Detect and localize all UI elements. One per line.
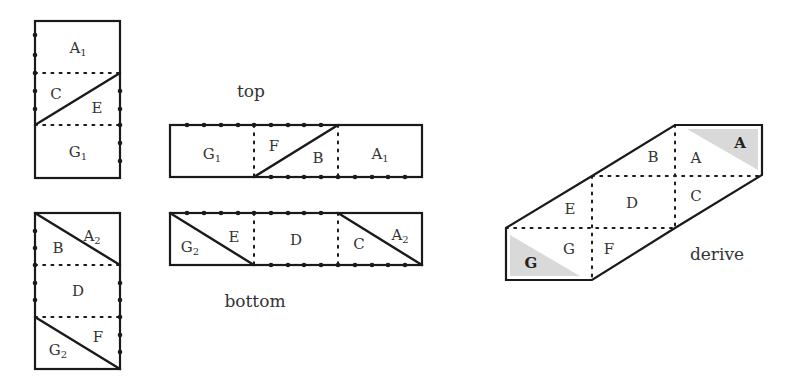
perforation-dot bbox=[353, 175, 358, 180]
region-label: G2 bbox=[181, 238, 199, 257]
cut-line-diagonal bbox=[35, 73, 120, 125]
perforation-dot bbox=[319, 211, 324, 216]
perforation-dot bbox=[33, 229, 38, 234]
perforation-dot bbox=[236, 123, 241, 128]
region-label: C bbox=[50, 85, 61, 103]
perforation-dot bbox=[403, 263, 408, 268]
perforation-dot bbox=[219, 211, 224, 216]
perforation-dot bbox=[336, 175, 341, 180]
region-label: B bbox=[312, 149, 323, 167]
caption-top: top bbox=[237, 81, 265, 101]
perforation-dot bbox=[252, 211, 257, 216]
cut-line-diagonal bbox=[254, 125, 338, 177]
perforation-dot bbox=[302, 263, 307, 268]
perforation-dot bbox=[118, 333, 123, 338]
panel-left-bottom-rectangle: A2BDFG2 bbox=[33, 213, 123, 369]
region-label: C bbox=[690, 187, 701, 205]
perforation-dot bbox=[118, 159, 123, 164]
perforation-dot bbox=[118, 315, 123, 320]
region-label: G2 bbox=[49, 341, 67, 360]
cut-line-diagonal bbox=[338, 213, 422, 265]
region-label: G bbox=[563, 240, 575, 258]
perforation-dot bbox=[33, 246, 38, 251]
perforation-dot bbox=[202, 123, 207, 128]
perforation-dot bbox=[118, 281, 123, 286]
perforation-dot bbox=[185, 211, 190, 216]
panel-left-top-rectangle: A1CEG1 bbox=[33, 21, 123, 178]
perforation-dot bbox=[286, 123, 291, 128]
perforation-dot bbox=[33, 71, 38, 76]
region-label: E bbox=[92, 99, 103, 117]
perforation-dot bbox=[319, 175, 324, 180]
folding-diagram: A1CEG1 A2BDFG2 G1FBA1 G2EDCA2 BAADCEGFG … bbox=[0, 0, 793, 385]
caption-derive: derive bbox=[690, 244, 744, 264]
region-label: D bbox=[72, 282, 84, 300]
region-label: A bbox=[690, 149, 702, 167]
region-label: A2 bbox=[390, 226, 408, 245]
perforation-dot bbox=[370, 175, 375, 180]
perforation-dot bbox=[118, 298, 123, 303]
region-label: A1 bbox=[370, 145, 388, 164]
region-label: F bbox=[93, 328, 103, 346]
perforation-dot bbox=[269, 123, 274, 128]
region-label: G1 bbox=[69, 143, 87, 162]
perforation-dot bbox=[269, 175, 274, 180]
region-label: D bbox=[290, 231, 302, 249]
perforation-dot bbox=[252, 123, 257, 128]
perforation-dot bbox=[286, 211, 291, 216]
perforation-dot bbox=[370, 263, 375, 268]
perforation-dot bbox=[403, 175, 408, 180]
perforation-dot bbox=[302, 175, 307, 180]
region-label: A1 bbox=[68, 39, 86, 58]
region-label: G1 bbox=[203, 145, 221, 164]
perforation-dot bbox=[33, 53, 38, 58]
region-label: B bbox=[52, 239, 63, 257]
perforation-dot bbox=[269, 263, 274, 268]
cut-line-diagonal bbox=[35, 317, 120, 369]
perforation-dot bbox=[286, 175, 291, 180]
panel-top-strip: G1FBA1 bbox=[170, 123, 422, 180]
region-label: B bbox=[647, 148, 658, 166]
perforation-dot bbox=[302, 123, 307, 128]
perforation-dot bbox=[33, 89, 38, 94]
perforation-dot bbox=[118, 123, 123, 128]
perforation-dot bbox=[336, 263, 341, 268]
region-label: E bbox=[229, 228, 240, 246]
perforation-dot bbox=[118, 107, 123, 112]
caption-bottom: bottom bbox=[224, 291, 285, 311]
perforation-dot bbox=[118, 141, 123, 146]
perforation-dot bbox=[33, 281, 38, 286]
perforation-dot bbox=[353, 263, 358, 268]
perforation-dot bbox=[319, 263, 324, 268]
cut-line-diagonal bbox=[35, 213, 120, 265]
perforation-dot bbox=[286, 263, 291, 268]
perforation-dot bbox=[319, 123, 324, 128]
perforation-dot bbox=[118, 89, 123, 94]
region-label: F bbox=[604, 240, 614, 258]
perforation-dot bbox=[33, 263, 38, 268]
region-label: F bbox=[269, 137, 279, 155]
region-label: A bbox=[733, 134, 746, 152]
region-label: A2 bbox=[82, 227, 100, 246]
region-label: E bbox=[565, 200, 576, 218]
perforation-dot bbox=[219, 123, 224, 128]
region-label: D bbox=[626, 194, 638, 212]
perforation-dot bbox=[33, 298, 38, 303]
perforation-dot bbox=[302, 211, 307, 216]
perforation-dot bbox=[202, 211, 207, 216]
perforation-dot bbox=[33, 33, 38, 38]
perforation-dot bbox=[33, 107, 38, 112]
perforation-dot bbox=[118, 350, 123, 355]
perforation-dot bbox=[236, 211, 241, 216]
perforation-dot bbox=[185, 123, 190, 128]
perforation-dot bbox=[269, 211, 274, 216]
perforation-dot bbox=[386, 263, 391, 268]
region-label: G bbox=[525, 254, 538, 272]
panel-bottom-strip: G2EDCA2 bbox=[170, 211, 422, 268]
region-label: C bbox=[353, 235, 364, 253]
perforation-dot bbox=[386, 175, 391, 180]
